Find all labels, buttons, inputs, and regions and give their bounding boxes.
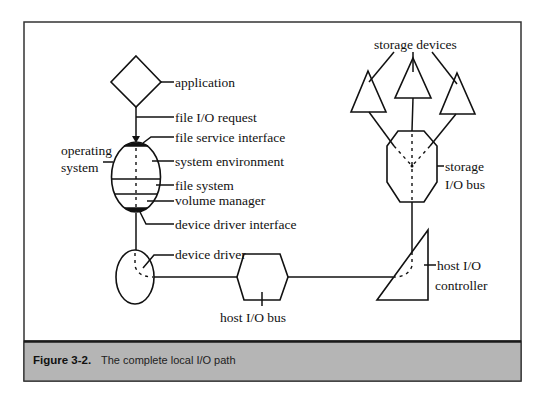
figure: Figure 3-2. The complete local I/O path … <box>0 0 547 399</box>
label-volume-manager: volume manager <box>175 193 266 208</box>
label-storage-devices: storage devices <box>374 37 457 52</box>
figure-frame <box>24 22 521 381</box>
label-file-service-interface: file service interface <box>175 130 285 145</box>
caption-band: Figure 3-2. The complete local I/O path <box>24 341 521 381</box>
io-path-diagram: Figure 3-2. The complete local I/O path … <box>0 0 547 399</box>
figure-caption: The complete local I/O path <box>101 354 236 366</box>
label-file-io-request: file I/O request <box>175 110 257 125</box>
label-device-driver: device driver <box>175 247 246 262</box>
label-operating-system-2: system <box>61 160 99 175</box>
label-operating-system-1: operating <box>61 143 112 158</box>
label-system-environment: system environment <box>175 154 284 169</box>
label-file-system: file system <box>175 178 234 193</box>
figure-number: Figure 3-2. <box>33 354 91 366</box>
label-host-io-bus: host I/O bus <box>220 310 286 325</box>
label-device-driver-interface: device driver interface <box>175 217 296 232</box>
label-host-io-controller-2: controller <box>435 278 488 293</box>
label-storage-io-bus-2: I/O bus <box>445 177 485 192</box>
label-host-io-controller-1: host I/O <box>437 258 481 273</box>
label-application: application <box>175 75 235 90</box>
label-storage-io-bus-1: storage <box>445 159 484 174</box>
